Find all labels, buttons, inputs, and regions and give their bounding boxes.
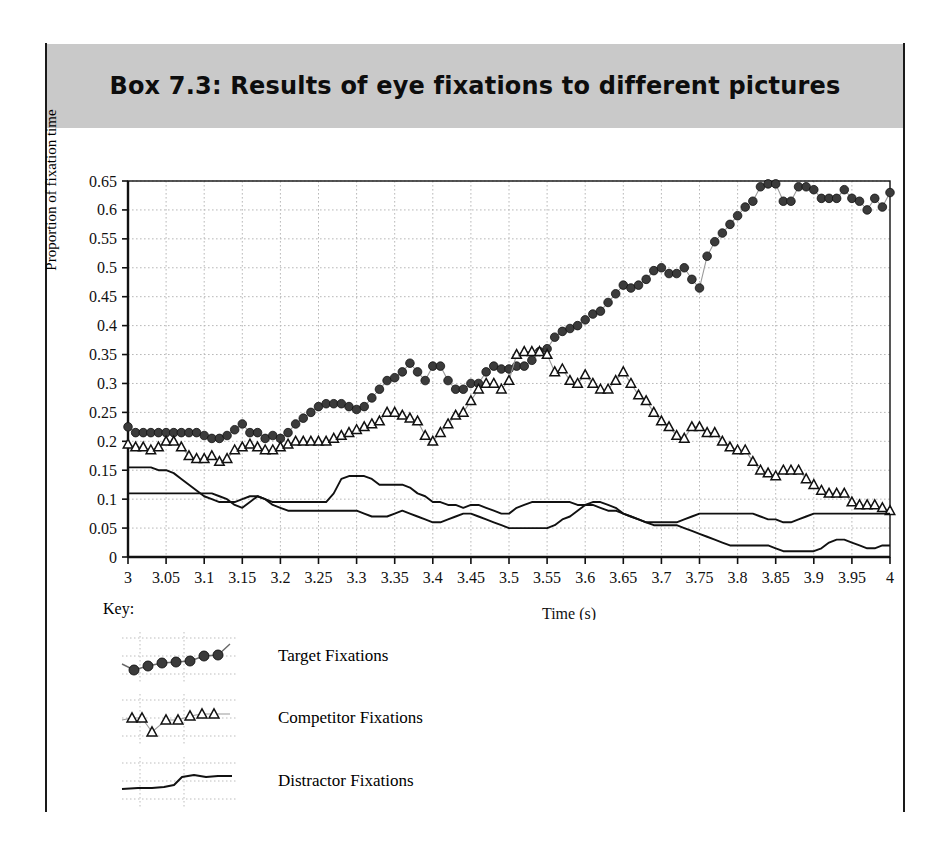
legend-item-target: Target Fixations bbox=[118, 630, 588, 686]
legend-label-competitor: Competitor Fixations bbox=[278, 708, 423, 728]
x-tick-label: 3.65 bbox=[609, 569, 637, 586]
legend-item-distractor: Distractor Fixations bbox=[118, 755, 588, 811]
y-tick-label: 0 bbox=[109, 549, 117, 566]
y-tick-label: 0.2 bbox=[97, 433, 117, 450]
x-tick-label: 3.75 bbox=[686, 569, 714, 586]
box-header-band: Box 7.3: Results of eye fixations to dif… bbox=[47, 44, 903, 128]
y-tick-label: 0.6 bbox=[97, 201, 117, 218]
y-tick-label: 0.1 bbox=[97, 491, 117, 508]
x-tick-label: 4 bbox=[886, 569, 894, 586]
x-tick-label: 3.45 bbox=[457, 569, 485, 586]
competitor-fixations-swatch-icon bbox=[118, 692, 248, 748]
y-tick-label: 0.4 bbox=[97, 317, 117, 334]
x-tick-label: 3.7 bbox=[651, 569, 671, 586]
x-tick-label: 3.9 bbox=[804, 569, 824, 586]
x-tick-label: 3.4 bbox=[423, 569, 443, 586]
legend: Key: Target Fixations Competitor Fixatio… bbox=[100, 600, 600, 810]
x-tick-label: 3.55 bbox=[533, 569, 561, 586]
y-tick-label: 0.5 bbox=[97, 259, 117, 276]
legend-label-target: Target Fixations bbox=[278, 646, 388, 666]
y-tick-label: 0.05 bbox=[89, 520, 117, 537]
y-tick-label: 0.25 bbox=[89, 404, 117, 421]
y-tick-label: 0.65 bbox=[89, 173, 117, 190]
x-tick-label: 3.85 bbox=[762, 569, 790, 586]
x-tick-label: 3.6 bbox=[575, 569, 595, 586]
x-tick-label: 3.3 bbox=[347, 569, 367, 586]
chart-container: Proportion of fixation time 00.050.10.15… bbox=[47, 150, 903, 620]
x-tick-label: 3.2 bbox=[270, 569, 290, 586]
box-right-rule bbox=[903, 43, 905, 812]
target-fixations-swatch-icon bbox=[118, 630, 248, 686]
x-tick-label: 3 bbox=[124, 569, 132, 586]
x-tick-label: 3.95 bbox=[838, 569, 866, 586]
x-tick-label: 3.05 bbox=[152, 569, 180, 586]
page-title: Box 7.3: Results of eye fixations to dif… bbox=[109, 72, 840, 100]
legend-key-label: Key: bbox=[103, 600, 134, 618]
x-tick-label: 3.1 bbox=[194, 569, 214, 586]
legend-label-distractor: Distractor Fixations bbox=[278, 771, 414, 791]
fixation-proportion-line-chart: 00.050.10.150.20.250.30.350.40.450.50.55… bbox=[47, 150, 903, 620]
x-tick-label: 3.15 bbox=[228, 569, 256, 586]
y-tick-label: 0.55 bbox=[89, 230, 117, 247]
y-tick-label: 0.45 bbox=[89, 288, 117, 305]
x-tick-label: 3.35 bbox=[381, 569, 409, 586]
x-tick-label: 3.8 bbox=[728, 569, 748, 586]
legend-item-competitor: Competitor Fixations bbox=[118, 692, 588, 748]
y-tick-label: 0.35 bbox=[89, 346, 117, 363]
x-tick-label: 3.25 bbox=[305, 569, 333, 586]
x-tick-label: 3.5 bbox=[499, 569, 519, 586]
y-tick-label: 0.15 bbox=[89, 462, 117, 479]
page-root: Box 7.3: Results of eye fixations to dif… bbox=[0, 0, 942, 859]
distractor-fixations-swatch-icon bbox=[118, 755, 248, 811]
y-tick-label: 0.3 bbox=[97, 375, 117, 392]
